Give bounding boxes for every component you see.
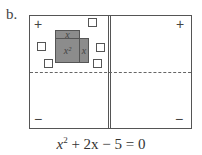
zero-line-dashed xyxy=(30,72,191,73)
x-tile-label: x xyxy=(82,45,86,56)
unit-tile xyxy=(93,59,102,68)
unit-tile xyxy=(44,59,53,68)
x-squared-label: x² xyxy=(64,45,71,56)
right-negative-sign: − xyxy=(175,112,183,126)
unit-tile xyxy=(96,43,105,52)
part-label: b. xyxy=(6,6,17,23)
left-positive-sign: + xyxy=(34,17,42,31)
left-negative-sign: − xyxy=(34,112,42,126)
unit-tile xyxy=(37,42,46,51)
x-tile-vertical: x xyxy=(79,38,89,63)
equation-rest: + 2x − 5 = 0 xyxy=(68,136,146,152)
x-squared-tile: x² xyxy=(55,38,80,63)
equation: x2 + 2x − 5 = 0 xyxy=(0,135,202,153)
unit-tile xyxy=(88,18,97,27)
right-positive-sign: + xyxy=(176,17,184,31)
